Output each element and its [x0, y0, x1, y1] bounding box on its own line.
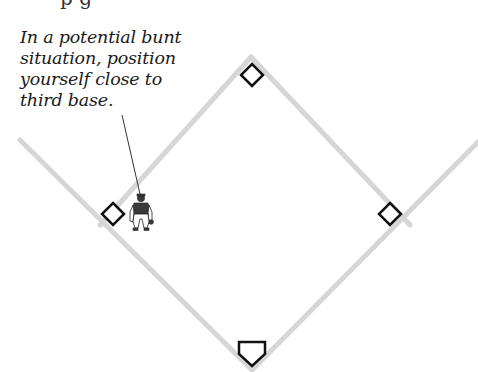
- caption-line: situation, position: [20, 48, 210, 69]
- caption-pointer-line: [122, 115, 140, 194]
- player-torso: [132, 203, 150, 214]
- second-to-first-path: [251, 57, 410, 225]
- player-cap-brim: [137, 194, 145, 196]
- caption-line: third base.: [20, 90, 210, 111]
- caption-line: In a potential bunt: [20, 27, 210, 48]
- player-right-shoe: [144, 228, 149, 231]
- player-pants: [133, 214, 149, 228]
- caption-line: yourself close to: [20, 69, 210, 90]
- instruction-caption: In a potential bunt situation, position …: [20, 27, 210, 111]
- player-left-shoe: [133, 228, 138, 231]
- third-baseman-player: [130, 194, 154, 231]
